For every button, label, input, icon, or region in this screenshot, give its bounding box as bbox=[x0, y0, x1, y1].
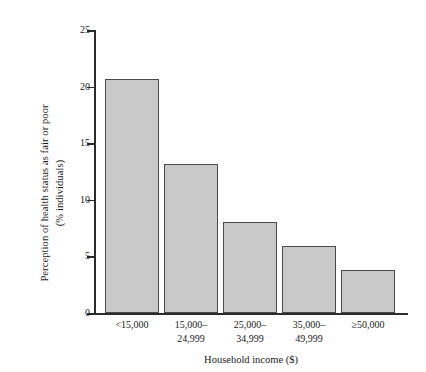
x-axis-tick-labels: <15,00015,000–24,99925,000–34,99935,000–… bbox=[94, 318, 408, 352]
x-tick-label: 35,000–49,999 bbox=[276, 318, 342, 346]
y-axis-title-line-1: Perception of health status as fair or p… bbox=[37, 53, 52, 333]
x-tick-label-line: 15,000– bbox=[158, 318, 224, 332]
bar-series bbox=[94, 30, 408, 313]
bar bbox=[105, 79, 159, 313]
bar bbox=[223, 222, 277, 313]
x-tick-label-line: 49,999 bbox=[276, 332, 342, 346]
y-tick-label: 20 bbox=[64, 80, 90, 93]
x-tick-label: ≥50,000 bbox=[335, 318, 401, 332]
bar bbox=[282, 246, 336, 313]
bar bbox=[341, 270, 395, 313]
x-tick-label-line: 35,000– bbox=[276, 318, 342, 332]
x-axis-title: Household income ($) bbox=[94, 353, 408, 367]
x-tick-label-line: ≥50,000 bbox=[335, 318, 401, 332]
plot-area: 0510152025 bbox=[94, 30, 408, 313]
y-tick-label: 10 bbox=[64, 193, 90, 206]
x-axis-line bbox=[94, 313, 408, 315]
x-tick-label: 15,000–24,999 bbox=[158, 318, 224, 346]
x-tick-label-line: 34,999 bbox=[217, 332, 283, 346]
x-tick-label: 25,000–34,999 bbox=[217, 318, 283, 346]
x-tick-label: <15,000 bbox=[99, 318, 165, 332]
x-tick-label-line: <15,000 bbox=[99, 318, 165, 332]
x-tick-label-line: 24,999 bbox=[158, 332, 224, 346]
bar bbox=[164, 164, 218, 313]
y-tick-label: 25 bbox=[64, 23, 90, 36]
y-tick-label: 5 bbox=[64, 249, 90, 262]
y-tick-label: 15 bbox=[64, 136, 90, 149]
y-tick-label: 0 bbox=[64, 306, 90, 319]
x-tick-label-line: 25,000– bbox=[217, 318, 283, 332]
bar-chart-figure: Perception of health status as fair or p… bbox=[0, 0, 426, 372]
